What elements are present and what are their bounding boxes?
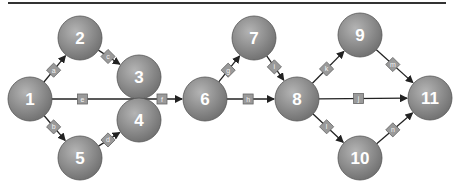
node-6[interactable]: 6: [183, 77, 227, 121]
edge-label-text: k: [325, 65, 329, 72]
node-label: 1: [25, 90, 34, 109]
node-label: 8: [292, 90, 301, 109]
node-label: 4: [134, 111, 144, 130]
node-11[interactable]: 11: [408, 76, 452, 120]
edge-label-text: d: [106, 136, 110, 143]
node-4[interactable]: 4: [117, 98, 161, 142]
edge-label-text: f: [161, 96, 163, 103]
node-label: 7: [249, 29, 258, 48]
node-label: 2: [75, 29, 84, 48]
edge-label-d[interactable]: d: [101, 133, 115, 147]
node-7[interactable]: 7: [232, 16, 276, 60]
edge-label-text: b: [52, 123, 56, 130]
edge-label-a[interactable]: a: [47, 63, 61, 77]
node-5[interactable]: 5: [58, 136, 102, 180]
node-8[interactable]: 8: [275, 77, 319, 121]
edge-label-text: j: [357, 95, 360, 103]
edge-label-c[interactable]: c: [101, 49, 115, 63]
network-diagram: 1234567891011 abcdefghikjlmn: [0, 0, 455, 187]
edge-label-j[interactable]: j: [354, 94, 364, 104]
edge-label-text: g: [226, 67, 230, 75]
edge-label-text: n: [391, 126, 395, 133]
node-label: 9: [355, 26, 364, 45]
node-3[interactable]: 3: [117, 55, 161, 99]
node-label: 10: [351, 149, 370, 168]
edge-label-e[interactable]: e: [77, 94, 87, 104]
node-label: 5: [75, 149, 84, 168]
edge-label-text: e: [80, 96, 84, 103]
node-2[interactable]: 2: [58, 16, 102, 60]
node-1[interactable]: 1: [8, 77, 52, 121]
edge-label-text: h: [246, 96, 250, 103]
edge-label-g[interactable]: g: [221, 63, 235, 77]
edge-label-i[interactable]: i: [267, 60, 281, 74]
edge-label-text: a: [52, 67, 56, 74]
node-label: 11: [421, 89, 439, 108]
edge-label-f[interactable]: f: [157, 94, 167, 104]
edge-label-h[interactable]: h: [243, 94, 253, 104]
node-label: 6: [200, 90, 209, 109]
edge-label-text: c: [106, 53, 110, 60]
node-label: 3: [134, 68, 143, 87]
nodes-layer: 1234567891011: [8, 13, 452, 180]
node-10[interactable]: 10: [338, 136, 382, 180]
node-9[interactable]: 9: [338, 13, 382, 57]
edge-label-text: m: [390, 61, 396, 68]
